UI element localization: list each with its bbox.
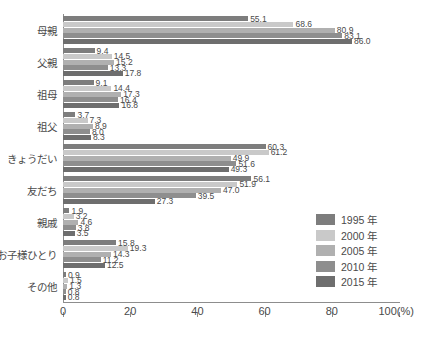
bar[interactable] — [63, 92, 121, 97]
bar-group: きょうだい60.361.249.951.649.3 — [0, 142, 425, 174]
bar-row[interactable]: 47.0 — [63, 188, 399, 193]
bar[interactable] — [63, 225, 76, 230]
bar-row[interactable]: 7.3 — [63, 118, 399, 123]
bar-row[interactable]: 13.3 — [63, 65, 399, 70]
bar[interactable] — [63, 231, 75, 236]
bar-row[interactable]: 60.3 — [63, 144, 399, 149]
bar[interactable] — [63, 39, 352, 44]
bar-value-label: 16.8 — [121, 101, 138, 110]
chart-title — [6, 0, 418, 4]
bar[interactable] — [63, 48, 95, 53]
bar[interactable] — [63, 28, 335, 33]
bar-row[interactable]: 14.5 — [63, 54, 399, 59]
bar-group: 祖父3.77.38.98.08.3 — [0, 110, 425, 142]
bar[interactable] — [63, 86, 111, 91]
legend-item[interactable]: 2015 年 — [316, 274, 421, 290]
bar[interactable] — [63, 112, 75, 117]
bar-row[interactable]: 39.5 — [63, 193, 399, 198]
bar[interactable] — [63, 135, 91, 140]
bar[interactable] — [63, 220, 78, 225]
legend-item[interactable]: 1995 年 — [316, 212, 421, 228]
bar[interactable] — [63, 16, 248, 21]
bar[interactable] — [63, 199, 155, 204]
category-label: お子様ひとり — [0, 247, 57, 262]
bar[interactable] — [63, 22, 293, 27]
bar-row[interactable]: 61.2 — [63, 150, 399, 155]
category-label: 友だち — [27, 183, 57, 198]
x-tick-label: 20 — [124, 305, 136, 317]
bar[interactable] — [63, 176, 251, 181]
bar[interactable] — [63, 71, 123, 76]
category-label: 親戚 — [37, 215, 57, 230]
bar-row[interactable]: 83.1 — [63, 33, 399, 38]
chart-legend: 1995 年2000 年2005 年2010 年2015 年 — [316, 212, 421, 290]
bar-row[interactable]: 8.0 — [63, 129, 399, 134]
category-label: 祖母 — [37, 87, 57, 102]
bar-row[interactable]: 17.3 — [63, 92, 399, 97]
bar[interactable] — [63, 214, 74, 219]
bar[interactable] — [63, 167, 229, 172]
bar-row[interactable]: 3.7 — [63, 112, 399, 117]
bar[interactable] — [63, 118, 88, 123]
bar[interactable] — [63, 263, 105, 268]
bar[interactable] — [63, 103, 119, 108]
legend-swatch — [316, 214, 335, 225]
bar[interactable] — [63, 193, 196, 198]
legend-swatch — [316, 245, 335, 256]
legend-item[interactable]: 2010 年 — [316, 259, 421, 275]
bar[interactable] — [63, 208, 69, 213]
bar[interactable] — [63, 60, 114, 65]
bar-row[interactable]: 56.1 — [63, 176, 399, 181]
bar[interactable] — [63, 272, 66, 277]
bar-row[interactable]: 49.9 — [63, 156, 399, 161]
bar[interactable] — [63, 182, 237, 187]
bar-row[interactable]: 49.3 — [63, 167, 399, 172]
bar[interactable] — [63, 156, 231, 161]
bar-row[interactable]: 27.3 — [63, 199, 399, 204]
bar[interactable] — [63, 278, 68, 283]
category-label: きょうだい — [7, 151, 57, 166]
legend-label: 2000 年 — [341, 228, 377, 243]
bar-value-label: 49.3 — [231, 165, 248, 174]
bar-group: 友だち56.151.947.039.527.3 — [0, 174, 425, 206]
bar[interactable] — [63, 295, 66, 300]
bar-row[interactable]: 86.0 — [63, 39, 399, 44]
bar-row[interactable]: 55.1 — [63, 16, 399, 21]
bar-row[interactable]: 0.8 — [63, 289, 399, 294]
bar[interactable] — [63, 257, 101, 262]
legend-label: 1995 年 — [341, 212, 377, 227]
bar-row[interactable]: 17.8 — [63, 71, 399, 76]
bar[interactable] — [63, 240, 116, 245]
category-label: 祖父 — [37, 119, 57, 134]
bar[interactable] — [63, 144, 266, 149]
bar[interactable] — [63, 129, 90, 134]
x-tick-label: 100(%) — [378, 305, 413, 317]
bar[interactable] — [63, 97, 118, 102]
legend-item[interactable]: 2000 年 — [316, 228, 421, 244]
legend-item[interactable]: 2005 年 — [316, 243, 421, 259]
legend-label: 2015 年 — [341, 274, 377, 289]
bar-row[interactable]: 8.9 — [63, 124, 399, 129]
bar-row[interactable]: 0.8 — [63, 295, 399, 300]
category-label: 母親 — [37, 23, 57, 38]
bar-value-label: 0.8 — [68, 293, 80, 302]
bar[interactable] — [63, 161, 236, 166]
category-label: その他 — [27, 279, 57, 294]
bar[interactable] — [63, 65, 108, 70]
bar-group: 母親55.168.680.983.186.0 — [0, 14, 425, 46]
bar-row[interactable]: 14.4 — [63, 86, 399, 91]
x-tick-label: 80 — [326, 305, 338, 317]
bar[interactable] — [63, 124, 93, 129]
legend-swatch — [316, 261, 335, 272]
bar-value-label: 3.5 — [77, 229, 89, 238]
bar[interactable] — [63, 54, 112, 59]
bar[interactable] — [63, 80, 94, 85]
bar-value-label: 27.3 — [157, 197, 174, 206]
bar-row[interactable]: 16.4 — [63, 97, 399, 102]
bar-row[interactable]: 8.3 — [63, 135, 399, 140]
bar[interactable] — [63, 33, 342, 38]
bar-row[interactable]: 16.8 — [63, 103, 399, 108]
bar[interactable] — [63, 289, 66, 294]
legend-label: 2005 年 — [341, 243, 377, 258]
category-label: 父親 — [37, 55, 57, 70]
